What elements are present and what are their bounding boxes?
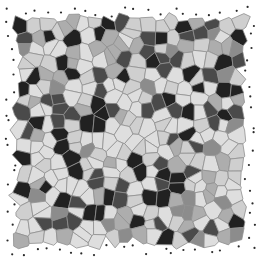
seed-point-dot [13,91,15,93]
seed-point-dot [132,244,134,246]
seed-point-dot [253,131,255,133]
seed-point-dot [93,254,95,256]
seed-point-dot [105,244,107,246]
seed-point-dot [250,106,252,108]
seed-point-dot [253,127,255,129]
voronoi-cell [119,228,133,242]
seed-point-dot [47,11,49,13]
voronoi-cell [12,16,27,35]
voronoi-mosaic-figure [0,0,260,270]
seed-point-dot [80,252,82,254]
seed-point-dot [249,212,251,214]
seed-point-dot [84,10,86,12]
seed-point-dot [250,32,252,34]
seed-point-dot [12,224,14,226]
seed-point-dot [251,202,253,204]
seed-point-dot [238,245,240,247]
seed-point-dot [11,253,13,255]
seed-point-dot [170,252,172,254]
seed-point-dot [244,70,246,72]
voronoi-cell [229,158,244,172]
seed-point-dot [249,190,251,192]
seed-point-dot [250,47,252,49]
seed-point-dot [246,59,248,61]
seed-point-dot [5,21,7,23]
seed-point-dot [7,119,9,121]
mosaic-svg [0,0,260,270]
seed-point-dot [253,25,255,27]
seed-point-dot [59,249,61,251]
seed-point-dot [248,237,250,239]
seed-point-dot [7,183,9,185]
voronoi-cell [194,38,210,52]
voronoi-cell [43,228,57,246]
seed-point-dot [252,150,254,152]
voronoi-cell [230,227,244,242]
voronoi-cell [155,32,167,45]
seed-point-dot [219,249,221,251]
seed-point-dot [236,10,238,12]
seed-point-dot [182,249,184,251]
seed-point-dot [14,164,16,166]
seed-point-dot [145,253,147,255]
seed-point-dot [247,6,249,8]
voronoi-cell [80,114,95,133]
seed-point-dot [74,8,76,10]
voronoi-cell [131,226,147,244]
seed-point-dot [7,211,9,213]
seed-point-dot [132,8,134,10]
seed-point-dot [123,246,125,248]
seed-point-dot [6,144,8,146]
seed-point-dot [253,247,255,249]
seed-point-dot [111,15,113,17]
voronoi-cell [93,187,104,205]
seed-point-dot [5,99,7,101]
seed-point-dot [37,248,39,250]
seed-point-dot [248,86,250,88]
voronoi-cell [140,17,156,32]
seed-point-dot [46,247,48,249]
seed-point-dot [219,12,221,14]
seed-point-dot [124,7,126,9]
seed-point-dot [160,13,162,15]
seed-point-dot [11,48,13,50]
seed-point-dot [5,115,7,117]
seed-point-dot [25,12,27,14]
seed-point-dot [165,248,167,250]
seed-point-dot [211,251,213,253]
seed-point-dot [6,239,8,241]
seed-point-dot [249,95,251,97]
seed-point-dot [244,178,246,180]
seed-point-dot [254,224,256,226]
voronoi-cell [106,229,120,248]
seed-point-dot [147,9,149,11]
seed-point-dot [94,14,96,16]
seed-point-dot [13,169,15,171]
seed-point-dot [208,14,210,16]
seed-point-dot [70,252,72,254]
seed-point-dot [12,73,14,75]
seed-point-dot [194,249,196,251]
seed-point-dot [33,10,35,12]
seed-point-dot [6,8,8,10]
voronoi-cell [12,150,31,166]
voronoi-cell [56,54,69,71]
seed-point-dot [5,138,7,140]
seed-point-dot [60,11,62,13]
seed-point-dot [248,164,250,166]
seed-point-dot [7,35,9,37]
seed-point-dot [182,13,184,15]
seed-point-dot [23,254,25,256]
seed-point-dot [195,14,197,16]
seed-point-dot [12,59,14,61]
seed-point-dot [176,8,178,10]
seed-point-dot [13,203,15,205]
